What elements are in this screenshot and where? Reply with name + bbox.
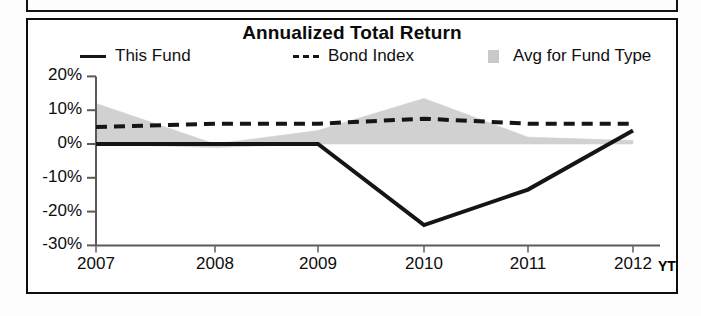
chart-title: Annualized Total Return [28, 22, 676, 44]
dashed-line-swatch-icon [293, 55, 319, 58]
legend-label-this-fund: This Fund [115, 46, 191, 66]
y-axis-label-neg20pct: -20% [0, 201, 82, 221]
y-axis-label-neg30pct: -30% [0, 234, 82, 254]
x-axis-label-2007: 2007 [56, 254, 136, 274]
annualized-total-return-panel: Annualized Total Return This Fund Bond I… [26, 18, 678, 294]
legend-item-this-fund: This Fund [80, 46, 191, 66]
area-swatch-icon [488, 50, 499, 63]
legend-item-avg-for-fund-type: Avg for Fund Type [486, 46, 651, 66]
y-axis-label-0pct: 0% [0, 133, 82, 153]
x-axis-label-2008: 2008 [175, 254, 255, 274]
solid-line-swatch-icon [80, 55, 106, 58]
x-axis-label-2009: 2009 [278, 254, 358, 274]
chart-legend: This Fund Bond Index Avg for Fund Type [28, 46, 676, 68]
legend-label-avg-for-fund-type: Avg for Fund Type [513, 46, 651, 66]
x-axis-label-2011: 2011 [488, 254, 568, 274]
y-axis-label-neg10pct: -10% [0, 167, 82, 187]
upper-panel-bottom-edge [26, 0, 678, 12]
x-axis-ytd-suffix: YT [658, 258, 676, 274]
legend-item-bond-index: Bond Index [293, 46, 414, 66]
legend-label-bond-index: Bond Index [328, 46, 414, 66]
y-axis-label-20pct: 20% [0, 65, 82, 85]
y-axis-label-10pct: 10% [0, 99, 82, 119]
x-axis-label-2010: 2010 [384, 254, 464, 274]
